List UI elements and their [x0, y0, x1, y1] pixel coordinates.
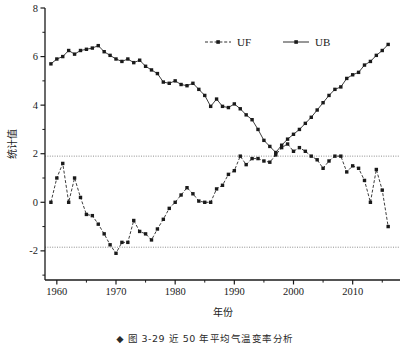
x-tick-label: 1960: [46, 286, 67, 297]
data-point: [120, 60, 123, 63]
data-point: [381, 49, 384, 52]
legend-marker-UB: [294, 40, 298, 44]
x-axis-label: 年份: [213, 306, 233, 318]
data-point: [85, 213, 88, 216]
data-point: [256, 128, 259, 131]
mann-kendall-chart: -202468196019701980199020002010UFUB统计值年份: [0, 0, 410, 322]
data-point: [79, 49, 82, 52]
data-point: [363, 179, 366, 182]
data-point: [179, 193, 182, 196]
legend-label-UB: UB: [315, 36, 330, 48]
y-tick-label: -2: [29, 245, 38, 256]
data-point: [114, 57, 117, 60]
data-point: [55, 176, 58, 179]
data-point: [203, 201, 206, 204]
data-point: [315, 108, 318, 111]
data-point: [363, 63, 366, 66]
plot-area: -202468196019701980199020002010: [29, 3, 400, 297]
data-point: [97, 44, 100, 47]
data-point: [162, 80, 165, 83]
data-point: [274, 151, 277, 154]
data-point: [250, 118, 253, 121]
data-point: [144, 232, 147, 235]
data-point: [381, 188, 384, 191]
series-line-UB: [51, 44, 388, 152]
data-point: [268, 161, 271, 164]
legend-item-UF[interactable]: UF: [205, 36, 251, 48]
data-point: [156, 227, 159, 230]
data-point: [138, 59, 141, 62]
y-tick-label: 4: [33, 100, 39, 111]
data-point: [156, 72, 159, 75]
data-point: [197, 199, 200, 202]
data-point: [108, 243, 111, 246]
data-point: [315, 158, 318, 161]
data-point: [239, 107, 242, 110]
data-point: [369, 201, 372, 204]
data-point: [114, 252, 117, 255]
data-point: [73, 52, 76, 55]
data-point: [173, 79, 176, 82]
data-point: [280, 144, 283, 147]
x-tick-label: 2010: [342, 286, 363, 297]
data-point: [339, 85, 342, 88]
x-tick-label: 1970: [106, 286, 127, 297]
data-point: [73, 176, 76, 179]
data-point: [327, 159, 330, 162]
data-point: [345, 170, 348, 173]
data-point: [55, 57, 58, 60]
data-point: [67, 49, 70, 52]
data-point: [49, 62, 52, 65]
data-point: [227, 173, 230, 176]
data-point: [227, 106, 230, 109]
figure-caption: ◆ 图 3-29 近 50 年平均气温变率分析: [0, 331, 410, 344]
data-point: [79, 196, 82, 199]
data-point: [262, 159, 265, 162]
data-point: [250, 157, 253, 160]
data-point: [85, 48, 88, 51]
data-point: [221, 184, 224, 187]
data-point: [268, 145, 271, 148]
data-point: [150, 68, 153, 71]
data-point: [310, 154, 313, 157]
legend: UFUB: [205, 36, 330, 48]
data-point: [244, 163, 247, 166]
data-point: [61, 162, 64, 165]
data-point: [120, 241, 123, 244]
data-point: [132, 61, 135, 64]
legend-marker-UF: [216, 40, 220, 44]
data-point: [298, 146, 301, 149]
data-point: [168, 82, 171, 85]
data-point: [244, 113, 247, 116]
y-axis-label: 统计值: [6, 129, 18, 159]
data-point: [102, 50, 105, 53]
data-point: [286, 142, 289, 145]
data-point: [351, 164, 354, 167]
data-point: [262, 139, 265, 142]
x-tick-label: 1990: [224, 286, 245, 297]
series-line-UF: [51, 144, 388, 253]
data-point: [298, 128, 301, 131]
data-point: [197, 88, 200, 91]
data-point: [321, 167, 324, 170]
data-point: [138, 230, 141, 233]
data-point: [173, 201, 176, 204]
data-point: [386, 225, 389, 228]
data-point: [61, 55, 64, 58]
data-point: [351, 73, 354, 76]
figure-container: -202468196019701980199020002010UFUB统计值年份…: [0, 0, 410, 344]
data-point: [233, 169, 236, 172]
data-point: [179, 83, 182, 86]
data-point: [357, 167, 360, 170]
series-markers-UB: [49, 43, 390, 154]
data-point: [333, 154, 336, 157]
x-tick-label: 2000: [283, 286, 304, 297]
data-point: [209, 201, 212, 204]
y-tick-label: 8: [33, 3, 38, 14]
legend-item-UB[interactable]: UB: [283, 36, 330, 48]
data-point: [375, 168, 378, 171]
data-point: [310, 116, 313, 119]
data-point: [150, 238, 153, 241]
x-tick-label: 1980: [165, 286, 186, 297]
legend-label-UF: UF: [237, 36, 251, 48]
